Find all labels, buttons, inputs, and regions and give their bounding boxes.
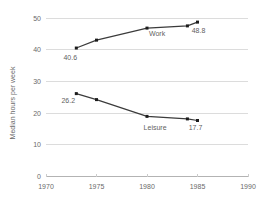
series-label-leisure: Leisure: [144, 124, 167, 131]
series-line-work: [76, 22, 197, 48]
chart-canvas: 0102030405019701975198019851990Median ho…: [0, 0, 272, 212]
series-label-work: Work: [149, 30, 166, 37]
y-tick-label: 40: [33, 46, 41, 53]
data-point-marker-work: [75, 47, 78, 50]
data-point-marker-work: [95, 39, 98, 42]
data-point-marker-leisure: [186, 117, 189, 120]
data-label: 17.7: [189, 124, 203, 131]
x-tick-label: 1990: [240, 183, 256, 190]
x-tick-label: 1970: [38, 183, 54, 190]
line-chart: 0102030405019701975198019851990Median ho…: [0, 0, 272, 212]
x-tick-label: 1985: [190, 183, 206, 190]
y-tick-label: 30: [33, 78, 41, 85]
y-tick-label: 10: [33, 141, 41, 148]
y-axis-title: Median hours per week: [9, 66, 17, 139]
data-label: 26.2: [61, 97, 75, 104]
y-tick-label: 20: [33, 110, 41, 117]
data-point-marker-leisure: [196, 119, 199, 122]
series-line-leisure: [76, 94, 197, 121]
data-point-marker-leisure: [75, 92, 78, 95]
data-point-marker-work: [186, 24, 189, 27]
x-tick-label: 1975: [89, 183, 105, 190]
y-tick-label: 50: [33, 15, 41, 22]
data-label: 40.6: [63, 54, 77, 61]
data-point-marker-leisure: [95, 98, 98, 101]
y-tick-label: 0: [37, 173, 41, 180]
data-point-marker-leisure: [146, 115, 149, 118]
data-label: 48.8: [192, 27, 206, 34]
data-point-marker-work: [196, 21, 199, 24]
x-tick-label: 1980: [139, 183, 155, 190]
